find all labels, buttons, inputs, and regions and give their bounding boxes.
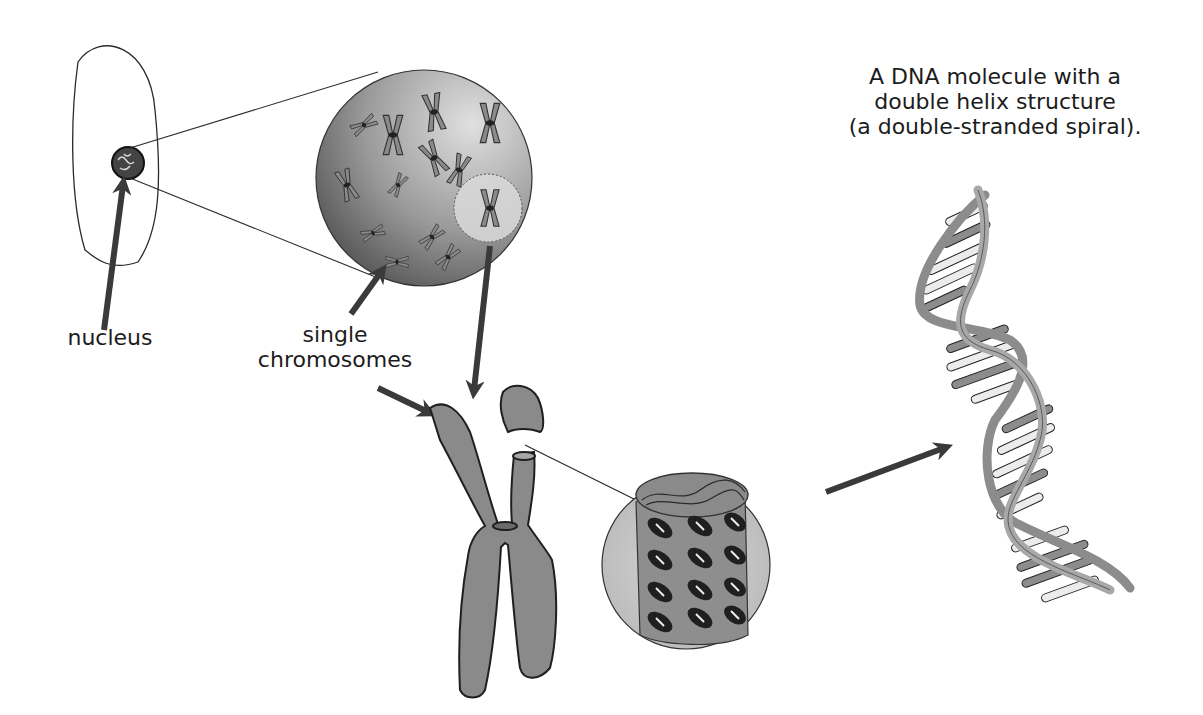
dna-title-line-2: double helix structure xyxy=(795,89,1195,114)
helix-strand-back xyxy=(920,195,1130,588)
single-chromosomes-label-line-2: chromosomes xyxy=(235,347,435,372)
dna-title: A DNA molecule with a double helix struc… xyxy=(795,64,1195,139)
single-chromosomes-label: single chromosomes xyxy=(235,322,435,372)
double-helix xyxy=(920,190,1130,603)
single-chromosome xyxy=(430,386,556,698)
dna-title-line-3: (a double-stranded spiral). xyxy=(795,114,1195,139)
arrow-chromosome-pointer xyxy=(378,388,428,412)
chromatin-cylinder xyxy=(602,473,770,649)
dna-title-line-1: A DNA molecule with a xyxy=(795,64,1195,89)
arrow-to-double-helix xyxy=(826,448,944,492)
nucleus-magnified xyxy=(316,70,532,286)
arrow-to-chromosomes xyxy=(351,272,381,314)
single-chromosomes-label-line-1: single xyxy=(235,322,435,347)
zoom-line-chromatin xyxy=(525,445,640,502)
nucleus-label: nucleus xyxy=(40,325,180,350)
